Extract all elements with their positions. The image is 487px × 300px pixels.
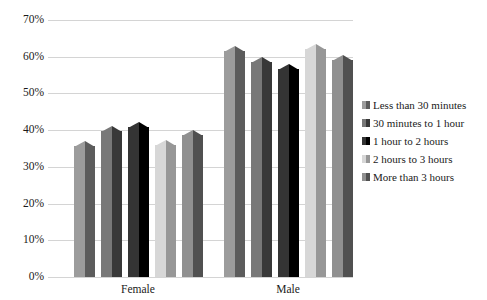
y-axis-tick-label: 50%	[4, 87, 44, 99]
legend-item: 30 minutes to 1 hour	[362, 114, 485, 132]
bar-face-left	[251, 62, 262, 277]
legend-item: 1 hour to 2 hours	[362, 132, 485, 150]
bar-chart: 70%60%50%40%30%20%10%0% Female Male Less…	[0, 0, 487, 300]
bar-face-right	[343, 60, 353, 277]
bar-body	[251, 57, 272, 277]
y-axis-tick-label: 60%	[4, 51, 44, 63]
bar-body	[74, 141, 95, 277]
legend-swatch-icon	[362, 101, 370, 109]
legend-item: Less than 30 minutes	[362, 96, 485, 114]
legend-swatch-icon	[362, 119, 370, 127]
bar	[332, 20, 353, 277]
legend-item: 2 hours to 3 hours	[362, 150, 485, 168]
y-axis-tick-label: 40%	[4, 124, 44, 136]
legend-swatch-icon	[362, 137, 370, 145]
bar-face-right	[112, 131, 122, 277]
bar-face-left	[224, 51, 235, 277]
legend-label: 2 hours to 3 hours	[373, 153, 452, 165]
bar-face-left	[128, 127, 139, 277]
bar-face-right	[166, 145, 176, 277]
bar-face-left	[305, 49, 316, 277]
bar	[182, 20, 203, 277]
y-axis-tick-label: 30%	[4, 161, 44, 173]
bar-body	[332, 55, 353, 277]
legend-swatch-icon	[362, 155, 370, 163]
legend: Less than 30 minutes30 minutes to 1 hour…	[362, 96, 485, 186]
plot-area	[48, 20, 353, 277]
bar-body	[224, 46, 245, 277]
bar-face-left	[332, 60, 343, 277]
y-axis-tick-label: 70%	[4, 14, 44, 26]
bar-face-left	[101, 131, 112, 277]
bar-group-female	[70, 20, 206, 277]
bar-body	[278, 64, 299, 277]
y-axis-tick-label: 10%	[4, 234, 44, 246]
bar-face-right	[316, 49, 326, 277]
bar	[101, 20, 122, 277]
legend-label: 30 minutes to 1 hour	[373, 117, 464, 129]
bar-face-left	[74, 146, 85, 277]
bar-face-left	[182, 135, 193, 277]
bar-body	[155, 140, 176, 277]
bar	[305, 20, 326, 277]
bar-body	[305, 44, 326, 277]
bar-body	[101, 126, 122, 277]
y-axis-tick-label: 0%	[4, 271, 44, 283]
legend-label: Less than 30 minutes	[373, 99, 466, 111]
bar-face-right	[139, 127, 149, 277]
gridline	[48, 277, 353, 278]
bar-face-right	[289, 69, 299, 277]
bar	[155, 20, 176, 277]
bar-face-left	[278, 69, 289, 277]
legend-swatch-icon	[362, 173, 370, 181]
legend-item: More than 3 hours	[362, 168, 485, 186]
bar-face-right	[235, 51, 245, 277]
bar-face-right	[85, 146, 95, 277]
legend-label: More than 3 hours	[373, 171, 454, 183]
y-axis-tick-label: 20%	[4, 198, 44, 210]
bar-face-right	[193, 135, 203, 277]
bar	[128, 20, 149, 277]
bar-group-male	[220, 20, 356, 277]
bar-face-right	[262, 62, 272, 277]
bar	[224, 20, 245, 277]
x-axis-label-female: Female	[70, 283, 206, 295]
x-axis-label-male: Male	[220, 283, 356, 295]
bar-face-left	[155, 145, 166, 277]
bar	[278, 20, 299, 277]
bar-body	[128, 122, 149, 277]
legend-label: 1 hour to 2 hours	[373, 135, 448, 147]
bar	[74, 20, 95, 277]
bar	[251, 20, 272, 277]
bar-body	[182, 130, 203, 277]
